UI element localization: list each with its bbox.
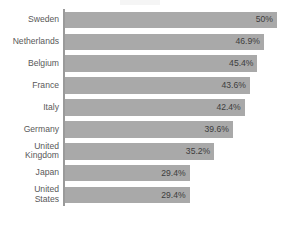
bar: 42.4%	[65, 99, 245, 116]
bar-row: Italy42.4%	[0, 99, 286, 116]
bar-value-label: 42.4%	[216, 103, 240, 112]
bar-row: Belgium45.4%	[0, 55, 286, 72]
bar-row: United States29.4%	[0, 187, 286, 204]
category-label: United Kingdom	[0, 142, 59, 161]
bar-value-label: 29.4%	[161, 169, 185, 178]
cropped-title-artifact	[120, 0, 160, 5]
plot-area: Sweden50%Netherlands46.9%Belgium45.4%Fra…	[0, 9, 286, 206]
bar: 35.2%	[65, 143, 214, 160]
bar: 29.4%	[65, 165, 190, 182]
bar-value-label: 45.4%	[229, 59, 253, 68]
bar: 46.9%	[65, 34, 264, 51]
category-label: Japan	[0, 168, 59, 178]
bar: 45.4%	[65, 55, 257, 72]
bar: 43.6%	[65, 77, 250, 94]
bar-value-label: 29.4%	[161, 191, 185, 200]
bar-row: Japan29.4%	[0, 165, 286, 182]
bar-row: Netherlands46.9%	[0, 34, 286, 51]
bar-row: Sweden50%	[0, 12, 286, 29]
bar-chart: Sweden50%Netherlands46.9%Belgium45.4%Fra…	[0, 0, 286, 233]
category-label: Sweden	[0, 15, 59, 25]
category-label: France	[0, 81, 59, 91]
bar-value-label: 50%	[256, 15, 273, 24]
bar-value-label: 39.6%	[205, 125, 229, 134]
bar-row: France43.6%	[0, 77, 286, 94]
category-label: Netherlands	[0, 37, 59, 47]
category-label: Germany	[0, 125, 59, 135]
bar: 39.6%	[65, 121, 233, 138]
category-label: United States	[0, 185, 59, 204]
bar: 50%	[65, 12, 277, 29]
bar-value-label: 35.2%	[186, 147, 210, 156]
category-label: Italy	[0, 103, 59, 113]
bar-row: Germany39.6%	[0, 121, 286, 138]
bar: 29.4%	[65, 187, 190, 204]
bar-row: United Kingdom35.2%	[0, 143, 286, 160]
category-label: Belgium	[0, 59, 59, 69]
bar-value-label: 43.6%	[221, 81, 245, 90]
bar-value-label: 46.9%	[235, 37, 259, 46]
